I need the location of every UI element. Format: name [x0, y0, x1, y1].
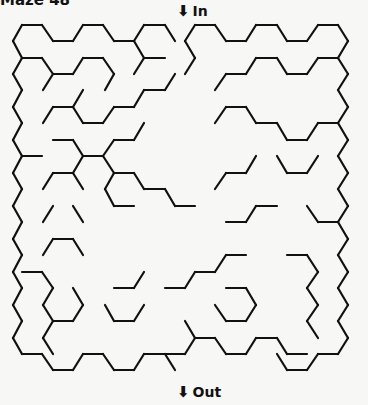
maze-wall — [103, 107, 114, 123]
maze-wall — [307, 123, 318, 140]
maze-wall — [338, 58, 348, 74]
maze-wall — [73, 206, 83, 222]
maze-wall — [73, 354, 83, 370]
maze-wall — [307, 255, 318, 272]
maze-wall — [307, 354, 318, 370]
maze-wall — [277, 123, 287, 140]
maze-wall — [215, 25, 226, 41]
maze-wall — [13, 189, 22, 206]
maze-wall — [13, 239, 22, 255]
maze-wall — [338, 25, 348, 41]
maze-wall — [73, 239, 83, 255]
maze-wall — [13, 272, 22, 288]
maze-wall — [13, 58, 22, 74]
maze-wall — [338, 239, 348, 255]
maze-wall — [134, 272, 144, 288]
maze-wall — [277, 354, 287, 370]
maze-wall — [338, 90, 348, 107]
maze-wall — [307, 288, 318, 305]
maze-wall — [134, 58, 144, 74]
maze-wall — [43, 288, 53, 305]
maze-wall — [338, 222, 348, 239]
maze-wall — [215, 173, 226, 189]
maze-wall — [338, 156, 348, 173]
maze-wall — [73, 107, 83, 123]
maze-wall — [13, 206, 22, 222]
maze-wall — [307, 305, 318, 321]
maze-wall — [43, 305, 53, 321]
maze-wall — [246, 58, 256, 74]
maze-wall — [338, 173, 348, 189]
maze-wall — [338, 74, 348, 90]
maze-wall — [185, 41, 195, 58]
maze-wall — [185, 321, 195, 338]
maze-wall — [338, 255, 348, 272]
maze-wall — [73, 173, 83, 189]
maze-wall — [73, 25, 83, 41]
maze-wall — [103, 25, 114, 41]
maze-wall — [73, 156, 83, 173]
maze-wall — [103, 58, 114, 74]
maze-wall — [134, 25, 144, 41]
maze-wall — [13, 222, 22, 239]
maze-wall — [338, 321, 348, 338]
maze-wall — [13, 41, 22, 58]
maze-wall — [277, 338, 287, 354]
maze-wall — [215, 107, 226, 123]
maze-wall — [246, 338, 256, 354]
exit-label: Out — [193, 384, 222, 400]
maze-wall — [13, 338, 22, 354]
maze-wall — [307, 321, 318, 338]
maze-wall — [338, 140, 348, 156]
maze-wall — [134, 354, 144, 370]
maze-wall — [307, 156, 318, 173]
maze-wall — [42, 25, 53, 41]
maze-wall — [73, 58, 83, 74]
maze-wall — [338, 189, 348, 206]
maze-wall — [13, 107, 22, 123]
maze-wall — [13, 123, 22, 140]
maze-wall — [185, 25, 195, 41]
maze-wall — [307, 206, 318, 222]
maze-wall — [215, 338, 226, 354]
maze-wall — [165, 25, 175, 41]
maze-wall — [307, 25, 318, 41]
maze-wall — [73, 140, 83, 156]
maze-wall — [277, 156, 287, 173]
maze-wall — [134, 90, 144, 107]
maze-wall — [105, 173, 114, 189]
maze-wall — [13, 74, 22, 90]
maze-wall — [73, 288, 83, 305]
maze-wall — [42, 58, 53, 74]
maze-wall — [134, 305, 144, 321]
maze-wall — [13, 140, 22, 156]
maze-wall — [134, 123, 144, 140]
maze-wall — [105, 74, 114, 90]
maze-wall — [215, 74, 226, 90]
maze-wall — [43, 173, 53, 189]
maze-wall — [277, 58, 287, 74]
maze-wall — [103, 354, 114, 370]
maze-wall — [185, 338, 195, 354]
maze-wall — [338, 272, 348, 288]
maze-wall — [338, 288, 348, 305]
maze-wall — [13, 173, 22, 189]
maze-wall — [338, 123, 348, 140]
maze-wall — [13, 25, 22, 41]
maze-wall — [338, 305, 348, 321]
maze-wall — [103, 156, 114, 173]
maze-wall — [246, 288, 256, 305]
maze-wall — [307, 58, 318, 74]
maze-wall — [338, 107, 348, 123]
maze-wall — [338, 41, 348, 58]
down-arrow-icon: ⬇ — [177, 383, 190, 401]
maze-wall — [43, 239, 53, 255]
maze-wall — [246, 25, 256, 41]
maze-wall — [185, 58, 195, 74]
maze-wall — [277, 25, 287, 41]
maze-wall — [42, 272, 53, 288]
maze-wall — [165, 354, 175, 370]
maze-wall — [43, 74, 53, 90]
maze-wall — [307, 272, 318, 288]
maze-grid[interactable] — [0, 0, 368, 405]
